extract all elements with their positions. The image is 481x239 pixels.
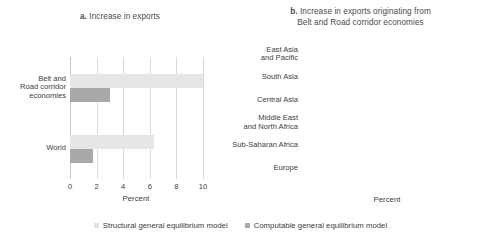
category-label-b-5: Europe xyxy=(224,164,298,173)
panel-b-title-line2: Belt and Road corridor economies xyxy=(240,18,481,29)
panel-a-title: a. Increase in exports xyxy=(0,12,240,23)
legend-item-structural: Structural general equilibrium model xyxy=(94,221,228,230)
xaxis-title-b: Percent xyxy=(347,195,427,204)
xtick-label-a-5: 10 xyxy=(193,182,213,191)
legend-swatch-icon-structural xyxy=(94,223,99,228)
category-label-b-1: South Asia xyxy=(224,73,298,82)
category-label-b-0: East Asiaand Pacific xyxy=(224,46,298,63)
chart-panel-a: a. Increase in exports xyxy=(0,0,240,210)
category-label-a-0: Belt andRoad corridoreconomies xyxy=(2,75,66,101)
panel-b-title-line1: Increase in exports originating from xyxy=(300,7,431,16)
category-label-b-2: Central Asia xyxy=(224,96,298,105)
xtick-label-a-4: 8 xyxy=(166,182,186,191)
panel-a-title-text: Increase in exports xyxy=(89,12,160,21)
category-label-a-1: World xyxy=(2,144,66,153)
legend-label-structural: Structural general equilibrium model xyxy=(103,221,228,230)
bar-a-0-1 xyxy=(70,88,110,102)
xtick-label-a-0: 0 xyxy=(60,182,80,191)
legend-item-computable: Computable general equilibrium model xyxy=(245,221,388,230)
panel-b-title: b. Increase in exports originating from … xyxy=(240,7,481,28)
chart-panel-b: b. Increase in exports originating from … xyxy=(240,0,481,210)
xtick-label-a-2: 4 xyxy=(113,182,133,191)
xtick-label-a-1: 2 xyxy=(87,182,107,191)
legend-label-computable: Computable general equilibrium model xyxy=(254,221,388,230)
bar-a-1-1 xyxy=(70,149,93,163)
gridline-a-5 xyxy=(203,57,204,179)
figure-root: a. Increase in exports b. Increase in ex… xyxy=(0,0,481,239)
xtick-label-a-3: 6 xyxy=(140,182,160,191)
legend: Structural general equilibrium model Com… xyxy=(0,221,481,230)
xaxis-title-a: Percent xyxy=(96,194,176,203)
category-label-b-3: Middle Eastand North Africa xyxy=(224,114,298,131)
category-label-b-4: Sub-Saharan Africa xyxy=(224,141,298,150)
bar-a-1-0 xyxy=(70,135,154,149)
panel-a-title-prefix: a. xyxy=(80,12,87,21)
plot-area-a xyxy=(70,57,203,179)
panel-b-title-prefix: b. xyxy=(290,7,297,16)
bar-a-0-0 xyxy=(70,74,203,88)
legend-swatch-icon-computable xyxy=(245,223,250,228)
